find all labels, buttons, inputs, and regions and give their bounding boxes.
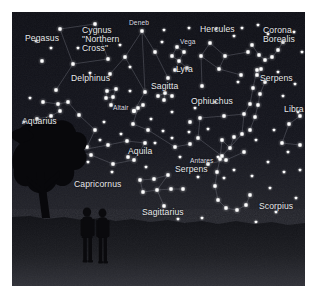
constellation-star xyxy=(183,64,192,73)
constellation-star xyxy=(107,101,116,110)
constellation-star xyxy=(214,196,223,205)
constellation-star xyxy=(197,52,206,61)
field-star xyxy=(280,93,287,100)
field-star xyxy=(33,38,40,45)
constellation-star xyxy=(256,90,265,99)
constellation-star xyxy=(186,140,195,149)
constellation-star xyxy=(261,78,270,87)
constellation-star xyxy=(171,143,180,152)
constellation-star xyxy=(106,70,115,79)
constellation-star xyxy=(180,48,189,57)
constellation-star xyxy=(221,52,230,61)
constellation-star xyxy=(91,20,100,29)
field-star xyxy=(48,45,55,52)
constellation-star xyxy=(222,204,231,213)
constellation-star xyxy=(38,57,47,66)
constellation-star xyxy=(164,171,173,180)
field-star xyxy=(231,33,238,40)
field-star xyxy=(275,69,282,76)
field-star xyxy=(169,135,176,142)
field-star xyxy=(273,209,280,216)
constellation-star xyxy=(109,160,118,169)
constellation-star xyxy=(194,134,203,143)
constellation-star xyxy=(136,176,145,185)
constellation-star xyxy=(186,118,195,127)
constellation-star xyxy=(179,185,188,194)
constellation-star xyxy=(130,107,139,116)
field-star xyxy=(75,45,82,52)
field-star xyxy=(169,109,176,116)
field-star xyxy=(117,42,124,49)
constellation-star xyxy=(237,71,246,80)
constellation-star xyxy=(141,88,150,97)
constellation-star xyxy=(87,151,96,160)
constellation-star xyxy=(153,186,162,195)
constellation-star xyxy=(268,53,277,62)
constellation-star xyxy=(230,133,239,142)
constellation-star xyxy=(246,191,255,200)
field-star xyxy=(199,215,206,222)
constellation-star xyxy=(112,85,121,94)
constellation-star xyxy=(91,126,100,135)
field-star xyxy=(293,195,300,202)
constellation-star xyxy=(141,139,150,148)
constellation-star xyxy=(130,156,139,165)
constellation-star xyxy=(246,126,255,135)
constellation-star xyxy=(139,101,148,110)
constellation-star xyxy=(75,111,84,120)
constellation-star xyxy=(279,38,288,47)
constellation-star xyxy=(56,107,65,116)
constellation-star xyxy=(249,84,258,93)
field-star xyxy=(186,129,193,136)
field-star xyxy=(148,116,155,123)
constellation-star xyxy=(251,113,260,122)
constellation-star xyxy=(206,39,215,48)
field-star xyxy=(221,175,228,182)
constellation-star xyxy=(168,92,177,101)
field-star xyxy=(161,27,168,34)
field-star xyxy=(255,22,262,29)
constellation-star xyxy=(150,175,159,184)
constellation-star xyxy=(175,57,184,66)
constellation-star xyxy=(240,110,249,119)
constellation-star xyxy=(240,148,249,157)
ground-grain xyxy=(12,216,305,286)
field-star xyxy=(212,99,219,106)
field-star xyxy=(285,149,292,156)
field-star xyxy=(292,81,299,88)
field-star xyxy=(265,159,272,166)
constellation-star xyxy=(226,144,235,153)
constellation-star xyxy=(242,201,251,210)
field-star xyxy=(239,25,246,32)
field-star xyxy=(267,185,274,192)
constellation-star xyxy=(69,60,78,69)
field-star xyxy=(235,79,242,86)
constellation-star xyxy=(160,202,169,211)
sky-panel: PegasusCygnus "Northern Cross"DenebLyraV… xyxy=(12,12,305,286)
constellation-star xyxy=(56,25,65,34)
constellation-star xyxy=(129,120,138,129)
constellation-star xyxy=(213,168,222,177)
constellation-star xyxy=(151,48,160,57)
constellation-star xyxy=(198,82,207,91)
field-star xyxy=(231,167,238,174)
field-star xyxy=(297,167,304,174)
constellation-star xyxy=(139,188,148,197)
field-star xyxy=(249,173,256,180)
field-star xyxy=(205,126,212,133)
field-star xyxy=(127,88,134,95)
field-star xyxy=(265,31,272,38)
constellation-star xyxy=(47,112,56,121)
field-star xyxy=(118,131,125,138)
constellation-star xyxy=(215,65,224,74)
constellation-star xyxy=(160,96,169,105)
sky-canvas xyxy=(12,12,305,286)
constellation-star xyxy=(246,100,255,109)
field-star xyxy=(291,29,298,36)
constellation-star xyxy=(254,101,263,110)
constellation-star xyxy=(196,114,205,123)
constellation-star xyxy=(248,41,257,50)
field-star xyxy=(175,216,182,223)
field-star xyxy=(101,119,108,126)
field-star xyxy=(192,105,199,112)
